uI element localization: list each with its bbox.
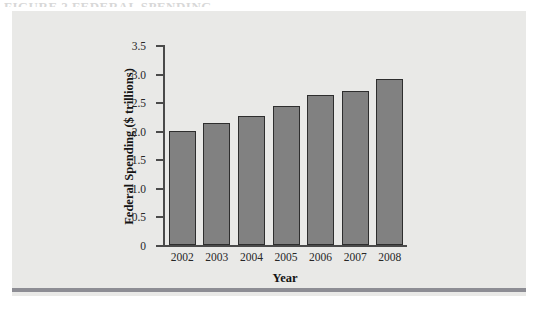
- figure-page: FIGURE 2 FEDERAL SPENDING Federal Spendi…: [0, 0, 538, 316]
- y-tick-mark: 3.5: [156, 45, 163, 47]
- bar-slot: 2002: [165, 45, 200, 245]
- bar-slot: 2004: [234, 45, 269, 245]
- y-tick-label: 3.5: [132, 40, 146, 52]
- bar: [238, 116, 265, 245]
- y-tick-label: 0: [140, 240, 146, 252]
- bar-slot: 2005: [269, 45, 304, 245]
- bar: [376, 79, 403, 245]
- bar: [307, 95, 334, 245]
- x-tick-label: 2002: [171, 251, 194, 263]
- x-tick-label: 2008: [378, 251, 401, 263]
- y-tick-label: 1.5: [132, 154, 146, 166]
- x-axis-title: Year: [163, 271, 407, 286]
- y-tick-mark: 0.5: [156, 216, 163, 218]
- bar-slot: 2008: [372, 45, 407, 245]
- y-tick-label: 3.0: [132, 69, 146, 81]
- figure-rule-bottom: [12, 288, 526, 292]
- y-tick-label: 2.0: [132, 126, 146, 138]
- bar-slot: 2003: [200, 45, 235, 245]
- cutoff-heading-remnant: FIGURE 2 FEDERAL SPENDING: [4, 0, 234, 7]
- y-tick-mark: 3.0: [156, 74, 163, 76]
- x-tick-label: 2003: [205, 251, 228, 263]
- plot-area: 3.53.02.52.01.51.00.50 20022003200420052…: [163, 45, 407, 247]
- y-tick-label: 0.5: [132, 211, 146, 223]
- bar: [273, 106, 300, 245]
- bar: [169, 131, 196, 245]
- bar-slot: 2006: [303, 45, 338, 245]
- y-tick-mark: 1.5: [156, 159, 163, 161]
- bar-series: 2002200320042005200620072008: [165, 45, 407, 245]
- x-tick-label: 2004: [240, 251, 263, 263]
- y-tick-label: 1.0: [132, 183, 146, 195]
- x-tick-label: 2005: [275, 251, 298, 263]
- y-tick-mark: 0: [156, 245, 163, 247]
- bar: [342, 91, 369, 245]
- y-axis-title-text: Federal Spending ($ trillions): [122, 68, 137, 225]
- x-tick-label: 2006: [309, 251, 332, 263]
- y-tick-mark: 2.0: [156, 131, 163, 133]
- x-axis-line: [163, 245, 407, 247]
- y-tick-mark: 1.0: [156, 188, 163, 190]
- y-tick-mark: 2.5: [156, 102, 163, 104]
- bar: [203, 123, 230, 245]
- y-tick-label: 2.5: [132, 97, 146, 109]
- bar-slot: 2007: [338, 45, 373, 245]
- x-tick-label: 2007: [344, 251, 367, 263]
